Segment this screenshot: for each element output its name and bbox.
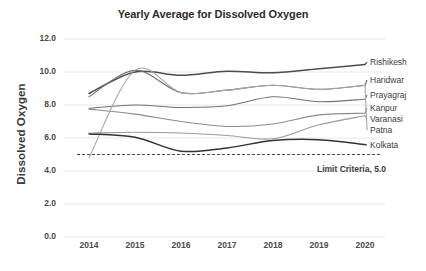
series-label-kolkata: Kolkata [370, 140, 398, 150]
series-label-patna: Patna [370, 125, 392, 135]
leader-line-rishikesh [365, 62, 367, 65]
series-line-kolkata [89, 134, 365, 152]
plot-area [0, 0, 426, 271]
chart-container: Yearly Average for Dissolved Oxygen Diss… [0, 0, 426, 271]
leader-line-patna [365, 85, 367, 130]
series-label-varanasi: Varanasi [370, 114, 403, 124]
series-lines [89, 65, 365, 158]
label-leader-lines [365, 62, 367, 145]
series-line-prayagraj [89, 97, 365, 109]
series-label-rishikesh: Rishikesh [370, 57, 407, 67]
limit-criteria-label: Limit Criteria, 5.0 [317, 164, 386, 174]
series-label-haridwar: Haridwar [370, 75, 404, 85]
series-label-prayagraj: Prayagraj [370, 90, 406, 100]
gridlines [64, 39, 385, 237]
series-line-patna [89, 68, 365, 158]
leader-line-haridwar [365, 80, 367, 85]
series-label-kanpur: Kanpur [370, 103, 397, 113]
